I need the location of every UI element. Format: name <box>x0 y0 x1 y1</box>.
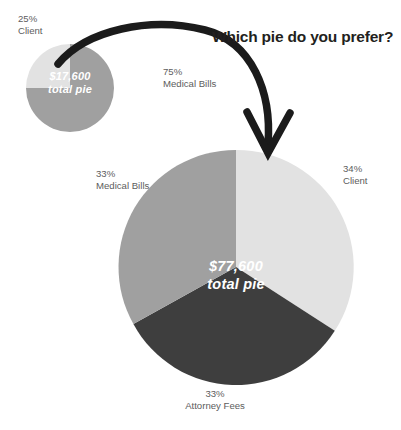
big-pie-total-label: $77,600 total pie <box>176 258 296 293</box>
small-pie-label-medical-bills-percent: 75% <box>163 66 216 78</box>
infographic-canvas: Which pie do you prefer? 25% Client 75% … <box>0 0 401 430</box>
big-pie-label-attorney-fees: 33% Attorney Fees <box>160 388 270 413</box>
small-pie-label-medical-bills-category: Medical Bills <box>163 78 216 90</box>
small-pie-label-client-category: Client <box>18 25 43 37</box>
pie-charts-svg <box>0 0 401 430</box>
small-pie-label-medical-bills: 75% Medical Bills <box>163 66 216 91</box>
big-pie-label-client-percent: 34% <box>343 163 368 175</box>
small-pie-total-label: $17,600 total pie <box>20 70 120 97</box>
big-pie-label-attorney-fees-percent: 33% <box>160 388 270 400</box>
small-pie-total-sublabel: total pie <box>20 83 120 96</box>
big-pie-label-medical-bills-percent: 33% <box>96 168 149 180</box>
small-pie-label-client: 25% Client <box>18 13 43 38</box>
big-pie-total-amount: $77,600 <box>176 258 296 276</box>
small-pie-label-client-percent: 25% <box>18 13 43 25</box>
big-pie-label-client: 34% Client <box>343 163 368 188</box>
small-pie-total-amount: $17,600 <box>20 70 120 83</box>
big-pie-label-attorney-fees-category: Attorney Fees <box>160 400 270 412</box>
big-pie-label-client-category: Client <box>343 175 368 187</box>
big-pie-label-medical-bills-category: Medical Bills <box>96 180 149 192</box>
big-pie-total-sublabel: total pie <box>176 276 296 294</box>
big-pie-label-medical-bills: 33% Medical Bills <box>96 168 149 193</box>
page-title: Which pie do you prefer? <box>212 28 401 45</box>
